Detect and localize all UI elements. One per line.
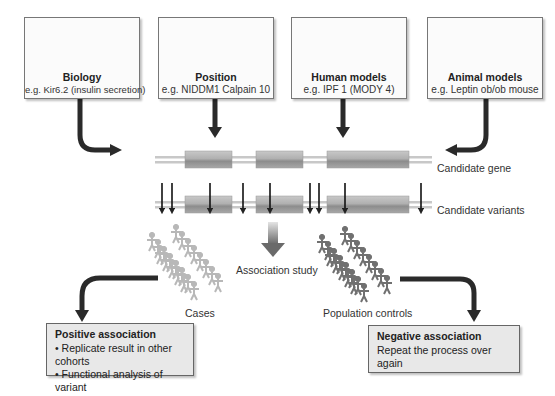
source-box-position: Position e.g. NIDDM1 Calpain 10 [158, 17, 274, 99]
negative-association-item: Repeat the process over again [377, 344, 511, 370]
source-box-animal-models: Animal models e.g. Leptin ob/ob mouse [427, 17, 543, 99]
positive-association-title: Positive association [55, 328, 185, 340]
flow-arrows [80, 94, 486, 150]
source-example: e.g. Leptin ob/ob mouse [428, 84, 542, 95]
negative-association-box: Negative association Repeat the process … [368, 325, 520, 373]
negative-association-title: Negative association [377, 330, 511, 342]
population-controls-label: Population controls [323, 307, 412, 319]
positive-association-box: Positive association • Replicate result … [46, 323, 194, 376]
association-study-label: Association study [236, 264, 318, 276]
candidate-variants-bar [155, 196, 432, 213]
source-example: e.g. IPF 1 (MODY 4) [292, 84, 406, 95]
positive-association-item: • Functional analysis of variant [55, 368, 185, 394]
candidate-gene-label: Candidate gene [437, 162, 511, 174]
candidate-variants-label: Candidate variants [437, 204, 525, 216]
positive-association-item: • Replicate result in other cohorts [55, 342, 185, 368]
source-example: e.g. NIDDM1 Calpain 10 [159, 84, 273, 95]
source-title: Human models [292, 71, 406, 83]
source-box-human-models: Human models e.g. IPF 1 (MODY 4) [291, 17, 407, 99]
source-example: e.g. Kir6.2 (insulin secretion) [25, 84, 139, 95]
source-title: Biology [25, 71, 139, 83]
cases-crowd [147, 224, 223, 300]
cases-label: Cases [185, 307, 215, 319]
association-arrow [261, 222, 285, 257]
controls-crowd [317, 226, 392, 302]
source-title: Animal models [428, 71, 542, 83]
source-box-biology: Biology e.g. Kir6.2 (insulin secretion) [24, 17, 140, 99]
candidate-gene-bar [155, 151, 432, 168]
source-title: Position [159, 71, 273, 83]
